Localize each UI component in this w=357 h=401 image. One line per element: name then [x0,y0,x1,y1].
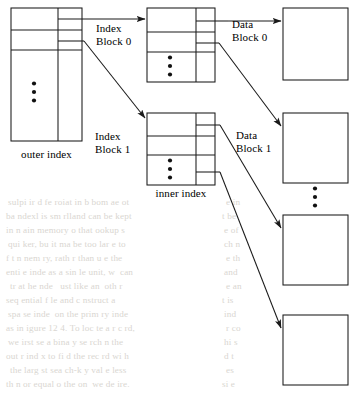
outer-index-ellipsis-dot-1 [32,90,36,94]
index-block-1-label-line1: Index [95,130,121,143]
inner-index-ellipsis-1-dot-2 [168,175,172,179]
pointer-outer-row1-to-index-block-1 [84,41,145,118]
inner-index-box-1 [147,113,215,185]
data-block-1-label-line1: Data [236,129,257,142]
index-block-0-label-line2: Block 0 [96,35,131,48]
data-block-0 [283,8,348,80]
outer-index-ellipsis-dot-2 [32,98,36,102]
inner-index-label: inner index [147,187,215,200]
pointer-index0-row1-to-data-block-1 [219,43,281,126]
inner-index-box-0 [147,8,215,82]
data-block-1-label-line2: Block 1 [236,142,271,155]
diagram-vector-layer [0,0,357,401]
pointer-index1-row2-to-data-block-3 [220,172,281,328]
outer-index-ellipsis-dot-0 [32,81,36,85]
inner-index-ellipsis-0-dot-1 [168,64,172,68]
outer-index-box [11,8,82,141]
data-block-1 [283,113,348,183]
data-block-3 [283,315,348,385]
outer-index-label: outer index [11,148,82,161]
data-block-0-label-line1: Data [232,18,253,31]
diagram-canvas: sulpi ir d fe roiat in b bom ae otba nde… [0,0,357,401]
index-block-0-label-line1: Index [96,22,122,35]
data-blocks-ellipsis-dot-1 [313,195,317,199]
inner-index-ellipsis-1-dot-0 [168,158,172,162]
data-blocks-ellipsis-dot-0 [313,186,317,190]
inner-index-ellipsis-0-dot-2 [168,72,172,76]
index-block-1-label-line2: Block 1 [95,143,130,156]
data-blocks-ellipsis-dot-2 [313,203,317,207]
data-block-2 [283,215,348,285]
inner-index-ellipsis-1-dot-1 [168,167,172,171]
inner-index-ellipsis-0-dot-0 [168,55,172,59]
data-block-0-label-line2: Block 0 [232,31,267,44]
